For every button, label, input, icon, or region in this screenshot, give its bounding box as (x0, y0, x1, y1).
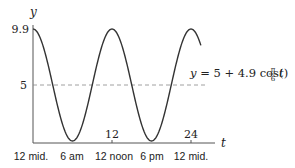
y-tick-label-9-9: 9.9 (12, 23, 30, 36)
svg-text:t): t) (279, 66, 288, 80)
x-tick-label-12: 12 (105, 128, 119, 141)
svg-text:6: 6 (271, 75, 276, 83)
y-tick-label-5: 5 (20, 79, 27, 92)
svg-text:y = 5 + 4.9 cos(: y = 5 + 4.9 cos( (189, 66, 283, 80)
time-label-6pm: 6 pm (140, 150, 164, 162)
x-tick-label-24: 24 (184, 128, 198, 141)
chart-canvas: y t 9.9 5 12 24 12 mid. 6 am 12 noon 6 p… (0, 0, 295, 168)
time-label-12-mid: 12 mid. (14, 150, 48, 162)
time-label-12-noon: 12 noon (95, 150, 133, 162)
y-axis-label: y (29, 5, 37, 19)
equation-label: y = 5 + 4.9 cos( π 6 t) (189, 66, 288, 83)
time-label-12-mid-end: 12 mid. (174, 150, 208, 162)
x-axis-label: t (221, 136, 226, 150)
time-label-6am: 6 am (60, 150, 84, 162)
svg-text:π: π (271, 66, 276, 74)
